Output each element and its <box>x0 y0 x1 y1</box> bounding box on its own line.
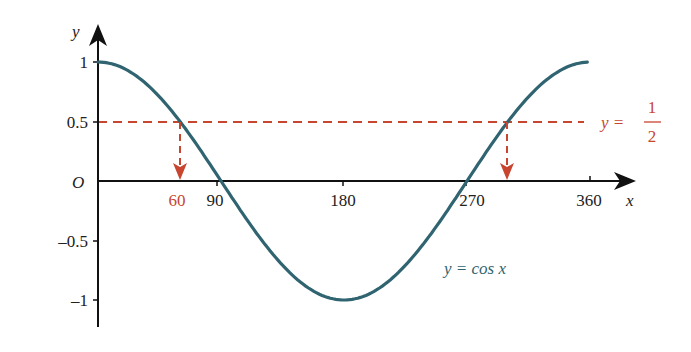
x-tick-360: 360 <box>576 191 602 210</box>
cos-label: y = cos x <box>442 259 506 278</box>
x-tick-270: 270 <box>459 191 485 210</box>
half-label-den: 2 <box>648 127 657 146</box>
chart-svg: y x O 1 0.5 –0.5 –1 60 90 180 270 360 y … <box>0 0 691 352</box>
y-tick-1: 1 <box>80 53 89 72</box>
x-tick-60: 60 <box>169 191 186 210</box>
x-axis-label: x <box>625 191 634 210</box>
x-tick-90: 90 <box>207 191 224 210</box>
half-label-num: 1 <box>648 98 657 117</box>
half-label-prefix: y = <box>599 113 624 132</box>
arrow-300-head-icon <box>500 163 514 180</box>
origin-label: O <box>72 173 84 192</box>
y-tick-neg1: –1 <box>70 291 88 310</box>
cosine-graph: y x O 1 0.5 –0.5 –1 60 90 180 270 360 y … <box>0 0 691 352</box>
y-tick-neg0.5: –0.5 <box>57 232 88 251</box>
arrow-60-head-icon <box>173 163 187 180</box>
y-tick-0.5: 0.5 <box>67 113 88 132</box>
y-axis-label: y <box>70 22 80 41</box>
x-tick-180: 180 <box>330 191 356 210</box>
